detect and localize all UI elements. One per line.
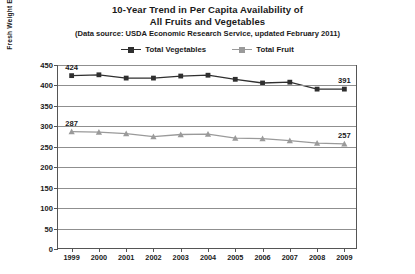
gridline (58, 106, 356, 107)
gridline (58, 167, 356, 168)
data-point-marker (69, 73, 74, 78)
y-axis-tick-mark (54, 249, 58, 250)
gridline (58, 229, 356, 230)
legend-label-total-fruit: Total Fruit (256, 45, 294, 54)
y-axis-tick-label: 0 (49, 245, 53, 254)
y-axis-tick-label: 300 (40, 122, 53, 131)
data-point-marker (178, 74, 183, 79)
gridline (58, 126, 356, 127)
x-axis-tick-label: 2002 (145, 253, 161, 262)
y-axis-tick-mark (54, 65, 58, 66)
y-axis-tick-mark (54, 229, 58, 230)
gridline (58, 208, 356, 209)
y-axis-tick-label: 200 (40, 163, 53, 172)
data-point-marker (206, 73, 211, 78)
chart-subtitle: (Data source: USDA Economic Research Ser… (0, 28, 415, 39)
x-axis-tick-mark (290, 248, 291, 252)
legend-label-total-vegetables: Total Vegetables (145, 45, 206, 54)
x-axis-tick-label: 2007 (282, 253, 298, 262)
x-axis-tick-mark (153, 248, 154, 252)
plot-area: 4504003503002502001501005001999200020012… (57, 65, 357, 249)
data-point-label: 391 (338, 76, 351, 85)
x-axis-tick-mark (181, 248, 182, 252)
y-axis-tick-label: 50 (45, 224, 53, 233)
y-axis-tick-mark (54, 188, 58, 189)
x-axis-tick-label: 2004 (200, 253, 216, 262)
x-axis-tick-mark (72, 248, 73, 252)
x-axis-tick-mark (235, 248, 236, 252)
gridline (58, 147, 356, 148)
legend-item-total-fruit[interactable]: Total Fruit (232, 45, 294, 54)
x-axis-tick-mark (99, 248, 100, 252)
legend-item-total-vegetables[interactable]: Total Vegetables (121, 45, 206, 54)
x-axis-tick-label: 1999 (64, 253, 80, 262)
page-title-line-2: All Fruits and Vegetables (0, 16, 415, 28)
y-axis-tick-mark (54, 167, 58, 168)
data-point-marker (315, 87, 320, 92)
series-layer (58, 65, 358, 249)
data-point-label: 287 (65, 119, 78, 128)
x-axis-tick-label: 2008 (309, 253, 325, 262)
y-axis-tick-mark (54, 208, 58, 209)
x-axis-tick-mark (344, 248, 345, 252)
data-point-label: 257 (338, 131, 351, 140)
x-axis-tick-mark (317, 248, 318, 252)
data-point-label: 424 (65, 63, 78, 72)
y-axis-tick-label: 400 (40, 81, 53, 90)
x-axis-tick-mark (208, 248, 209, 252)
legend-marker-triangle-icon (232, 46, 252, 53)
y-axis-title: Fresh Weight Equivalents (in pounds) (6, 0, 13, 62)
y-axis-tick-mark (54, 85, 58, 86)
x-axis-tick-label: 2000 (91, 253, 107, 262)
data-point-marker (233, 77, 238, 82)
y-axis-tick-mark (54, 147, 58, 148)
page-title-line-1: 10-Year Trend in Per Capita Availability… (0, 4, 415, 16)
gridline (58, 85, 356, 86)
data-point-marker (97, 72, 102, 77)
y-axis-tick-mark (54, 126, 58, 127)
data-point-marker (342, 87, 347, 92)
x-axis-tick-mark (263, 248, 264, 252)
y-axis-tick-label: 250 (40, 142, 53, 151)
y-axis-tick-mark (54, 106, 58, 107)
data-point-marker (287, 80, 292, 85)
gridline (58, 188, 356, 189)
x-axis-tick-label: 2006 (254, 253, 270, 262)
x-axis-tick-label: 2001 (118, 253, 134, 262)
x-axis-tick-label: 2009 (336, 253, 352, 262)
y-axis-tick-label: 100 (40, 204, 53, 213)
chart-container: 10-Year Trend in Per Capita Availability… (0, 0, 415, 274)
chart-legend: Total Vegetables Total Fruit (0, 45, 415, 54)
data-point-marker (124, 76, 129, 81)
y-axis-tick-label: 350 (40, 101, 53, 110)
gridline (58, 65, 356, 66)
y-axis-tick-label: 450 (40, 61, 53, 70)
chart-title-block: 10-Year Trend in Per Capita Availability… (0, 4, 415, 39)
y-axis-tick-label: 150 (40, 183, 53, 192)
x-axis-tick-label: 2005 (227, 253, 243, 262)
legend-marker-square-icon (121, 46, 141, 53)
x-axis-tick-label: 2003 (173, 253, 189, 262)
x-axis-tick-mark (126, 248, 127, 252)
data-point-marker (151, 76, 156, 81)
